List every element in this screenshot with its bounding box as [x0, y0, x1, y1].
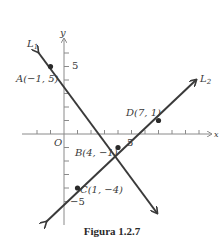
- line-l1-label: L1: [26, 38, 38, 51]
- x-axis-ticks: [37, 130, 199, 134]
- y-tick-label-5: 5: [72, 60, 78, 71]
- y-axis: [64, 38, 69, 225]
- line-l2-label: L2: [199, 73, 212, 86]
- coordinate-diagram: y x O 5 5 −5 L1 L2 A(−1, 5) B(4, −1) C(1…: [0, 0, 224, 242]
- point-c-label: C(1, −4): [80, 184, 123, 195]
- point-d-dot: [156, 118, 161, 123]
- point-d: D(7, 1): [125, 107, 161, 123]
- x-axis-label: x: [214, 130, 219, 139]
- point-b-label: B(4, −1): [74, 147, 118, 158]
- point-c: C(1, −4): [75, 184, 123, 195]
- point-a: A(−1, 5): [15, 64, 59, 84]
- figure-caption: Figura 1.2.7: [0, 225, 224, 237]
- point-b: B(4, −1): [74, 145, 121, 158]
- y-axis-ticks: [64, 53, 69, 202]
- diagram-canvas: y x O 5 5 −5 L1 L2 A(−1, 5) B(4, −1) C(1…: [0, 0, 224, 242]
- point-d-label: D(7, 1): [125, 107, 161, 118]
- point-a-label: A(−1, 5): [15, 73, 59, 84]
- point-a-dot: [48, 64, 53, 69]
- x-axis: [22, 130, 212, 134]
- origin-label: O: [54, 137, 62, 148]
- y-axis-label: y: [59, 27, 66, 38]
